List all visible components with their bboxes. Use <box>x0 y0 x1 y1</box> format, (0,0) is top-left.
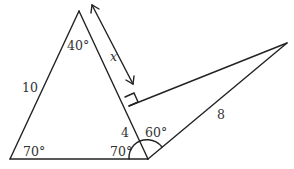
perpendicular-line <box>129 43 287 106</box>
angle-arc <box>129 140 162 159</box>
side-10-label: 10 <box>22 80 38 95</box>
angle-60-label: 60° <box>145 125 167 140</box>
left-side <box>10 11 79 159</box>
x-label: x <box>110 49 117 64</box>
geometry-diagram: 40° 10 70° 70° 4 60° 8 x <box>0 0 294 169</box>
side-8-label: 8 <box>217 107 225 122</box>
side-8 <box>148 43 287 159</box>
x-dimension-arrow <box>92 5 133 84</box>
right-angle-marker <box>125 93 138 106</box>
right-side <box>79 11 148 159</box>
segment-4-label: 4 <box>121 125 129 140</box>
right-base-angle-label: 70° <box>110 144 132 159</box>
left-base-angle-label: 70° <box>23 144 45 159</box>
apex-angle-label: 40° <box>67 38 89 53</box>
